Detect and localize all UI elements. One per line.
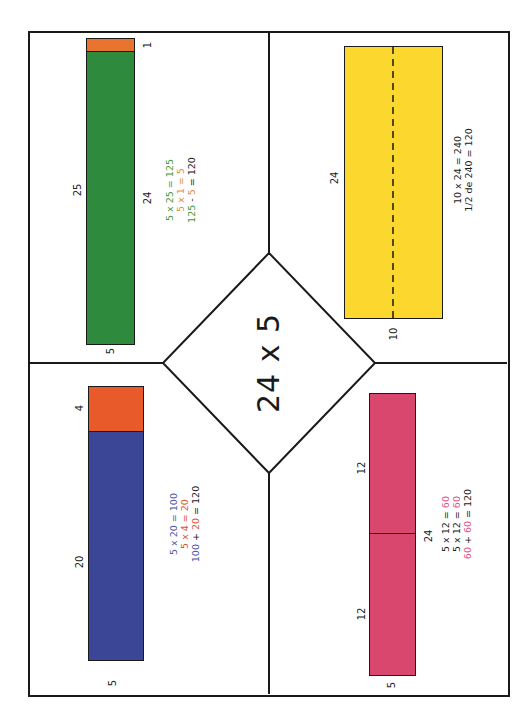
equation-line: 1/2 de 240 = 120 <box>463 128 474 211</box>
equation-line: 5 x 12 = 60 <box>451 489 462 559</box>
label-total: 24 <box>423 530 435 543</box>
equations: 5 x 12 = 605 x 12 = 6060 + 60 = 120 <box>440 489 473 559</box>
label-length: 24 <box>329 172 341 185</box>
pink-bar-half2 <box>369 533 416 676</box>
label-half2: 12 <box>356 608 368 621</box>
equation-line: 10 x 24 = 240 <box>452 128 463 211</box>
halving-dashed-line <box>0 0 531 728</box>
label-width: 10 <box>388 328 400 341</box>
pink-bar-half1 <box>369 393 416 535</box>
equation-line: 5 x 12 = 60 <box>440 489 451 559</box>
label-half1: 12 <box>356 462 368 475</box>
equations: 10 x 24 = 2401/2 de 240 = 120 <box>452 128 474 211</box>
label-width: 5 <box>386 682 398 688</box>
equation-line: 60 + 60 = 120 <box>462 489 473 559</box>
